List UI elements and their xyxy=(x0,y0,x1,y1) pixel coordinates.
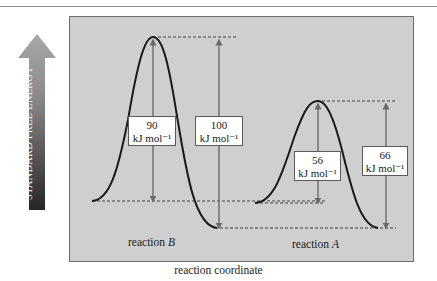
reaction-a-total-energy-box: 66 kJ mol⁻¹ xyxy=(362,146,408,176)
reaction-b-total-unit: kJ mol⁻¹ xyxy=(196,132,242,145)
reaction-a-activation-value: 56 xyxy=(295,154,340,167)
reaction-b-activation-value: 90 xyxy=(129,119,175,132)
reaction-a-activation-unit: kJ mol⁻¹ xyxy=(295,167,340,180)
reaction-a-total-value: 66 xyxy=(363,149,407,162)
reaction-b-label: reaction B xyxy=(128,236,175,248)
reaction-b-activation-unit: kJ mol⁻¹ xyxy=(129,132,175,145)
reaction-a-label: reaction A xyxy=(292,238,339,250)
reaction-a-total-unit: kJ mol⁻¹ xyxy=(363,162,407,175)
reaction-b-total-energy-box: 100 kJ mol⁻¹ xyxy=(195,116,243,146)
x-axis-label: reaction coordinate xyxy=(0,264,437,276)
reaction-a-activation-energy-box: 56 kJ mol⁻¹ xyxy=(294,151,341,181)
reaction-b-activation-energy-box: 90 kJ mol⁻¹ xyxy=(128,116,176,146)
reaction-b-total-value: 100 xyxy=(196,119,242,132)
